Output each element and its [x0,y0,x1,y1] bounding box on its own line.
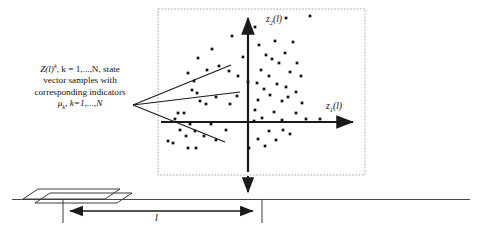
scatter-point [177,112,180,115]
scatter-point [274,40,277,43]
scatter-point [292,41,295,44]
scatter-point [278,62,281,65]
annotation-leader-lines [133,65,240,142]
scatter-point [215,96,218,99]
scatter-point [254,26,257,29]
scatter-point [295,91,298,94]
annotation-line-4: μk, k=1,...,N [18,98,142,112]
scatter-point [242,56,245,59]
scatter-point [268,75,271,78]
scatter-point [257,99,260,102]
scatter-point [282,129,285,132]
scatter-point [287,96,290,99]
annotation-line-4-tail: , k=1,...,N [65,98,102,108]
scatter-point [285,17,288,20]
diagram-svg [0,0,479,235]
scatter-point [225,129,228,132]
sample-region-dashed-box [158,9,365,175]
scatter-point [285,86,288,89]
scatter-point [187,72,190,75]
dimension-label: l [155,212,158,223]
annotation-line-1-tail: , k = 1,...,N, state [57,64,120,74]
scatter-point [309,15,312,18]
scatter-point [197,57,200,60]
scatter-point [174,118,177,121]
scatter-point [195,147,198,150]
scatter-point [196,92,199,95]
annotation-line-1: Z(l)k, k = 1,...,N, state [18,60,142,75]
scatter-point [231,35,234,38]
annotation-line-2: vector samples with [18,75,142,86]
scatter-point [273,111,276,114]
scatter-point [237,75,240,78]
scatter-point [253,120,256,123]
scatter-point [281,119,284,122]
scatter-point [205,103,208,106]
scatter-point [189,123,192,126]
scatter-point [276,83,279,86]
scatter-point [256,82,259,85]
scatter-point [206,69,209,72]
scatter-point [193,80,196,83]
scatter-point [257,138,260,141]
scatter-point [281,100,284,103]
scatter-point [289,133,292,136]
scatter-point [260,69,263,72]
scatter-point [191,89,194,92]
scatter-point [284,52,287,55]
horizontal-axis-label-tail: (l) [333,100,342,111]
scatter-point [268,130,271,133]
scatter-point [261,117,264,120]
scatter-point [167,140,170,143]
scatter-point [247,81,250,84]
scatter-point [264,145,267,148]
platform-shape [23,189,132,203]
scatter-point [300,75,303,78]
scatter-point [172,142,175,145]
scatter-point [179,129,182,132]
scatter-point [289,71,292,74]
scatter-point [183,112,186,115]
scatter-point [275,139,278,142]
scatter-point [319,118,322,121]
scatter-point [211,48,214,51]
vertical-axis-label-tail: (l) [273,13,282,24]
scatter-point [305,118,308,121]
scatter-point [210,123,213,126]
sample-annotation-text: Z(l)k, k = 1,...,N, state vector samples… [18,60,142,113]
scatter-point [203,135,206,138]
scatter-point [248,147,251,150]
vertical-axis-label: z2(l) [266,13,282,26]
scatter-point [228,70,231,73]
scatter-point [194,130,197,133]
scatter-point [295,112,298,115]
scatter-point [271,58,274,61]
scatter-point [218,65,221,68]
scatter-point [301,102,304,105]
horizontal-axis-label: z1(l) [326,100,342,113]
annotation-z-symbol: Z(l) [40,64,54,74]
figure-container: Z(l)k, k = 1,...,N, state vector samples… [0,0,479,235]
scatter-point [185,135,188,138]
scatter-point [229,103,232,106]
scatter-point [263,88,266,91]
scatter-point [199,100,202,103]
scatter-point [254,109,257,112]
scatter-point [215,139,218,142]
scatter-point [269,94,272,97]
scatter-point [258,44,261,47]
scatter-point [236,95,239,98]
scatter-point [265,54,268,57]
scatter-point [296,62,299,65]
annotation-line-3: corresponding indicators [18,87,142,98]
scatter-point [187,147,190,150]
